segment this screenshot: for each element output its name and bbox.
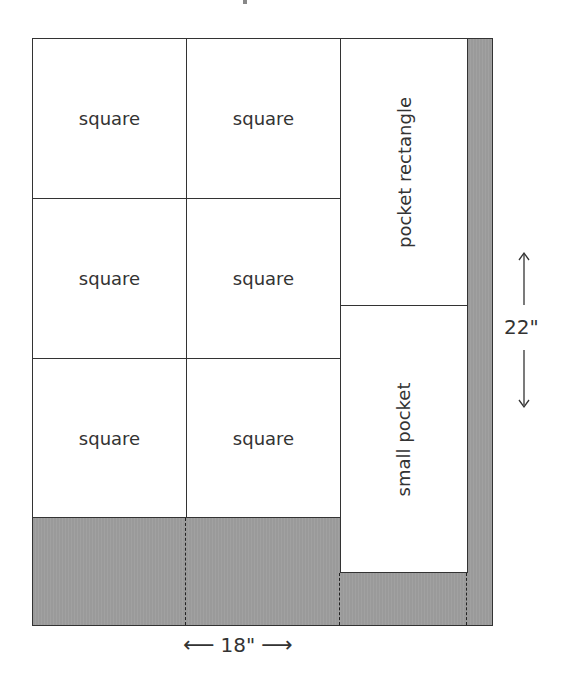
arrow-up-icon [504, 250, 544, 310]
dashed-cut-line [185, 518, 186, 625]
square-piece: square [32, 358, 187, 518]
piece-label: square [79, 268, 140, 289]
piece-label: small pocket [393, 382, 414, 496]
piece-label: square [233, 428, 294, 449]
dashed-cut-line [466, 573, 467, 625]
arrow-right-icon: ⟶ [261, 632, 293, 657]
width-dimension: ⟵ 18" ⟶ [183, 632, 293, 657]
arrow-down-icon [504, 350, 544, 410]
waste-right-strip [467, 38, 493, 626]
piece-label: pocket rectangle [394, 97, 415, 248]
piece-label: square [233, 108, 294, 129]
cutting-diagram: square square square square square squar… [0, 0, 569, 685]
square-piece: square [32, 198, 187, 359]
dashed-cut-line [339, 573, 340, 625]
waste-bottom-right [340, 572, 468, 626]
square-piece: square [186, 358, 341, 518]
piece-label: square [79, 428, 140, 449]
waste-bottom-left [32, 517, 341, 626]
arrow-left-icon: ⟵ [183, 632, 215, 657]
small-pocket-piece: small pocket [340, 305, 468, 573]
square-piece: square [186, 198, 341, 359]
pocket-rectangle-piece: pocket rectangle [340, 38, 468, 306]
height-label: 22" [504, 315, 539, 339]
square-piece: square [186, 38, 341, 199]
width-label: 18" [221, 633, 256, 657]
piece-label: square [79, 108, 140, 129]
square-piece: square [32, 38, 187, 199]
piece-label: square [233, 268, 294, 289]
top-mark [243, 0, 247, 4]
